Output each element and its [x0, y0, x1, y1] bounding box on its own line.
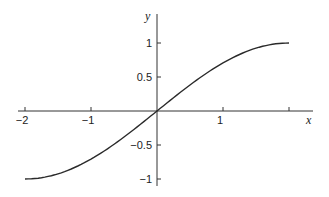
chart: −2−1110.5−0.5−1 x y — [0, 0, 329, 197]
y-tick-label: −1 — [139, 173, 152, 185]
x-tick-label: −2 — [16, 114, 29, 126]
y-tick-label: 1 — [146, 37, 152, 49]
y-axis-label: y — [144, 9, 151, 23]
x-tick-label: 1 — [217, 114, 223, 126]
y-tick-label: −0.5 — [130, 139, 152, 151]
axes — [18, 14, 313, 186]
x-axis-label: x — [305, 113, 312, 127]
y-tick-label: 0.5 — [137, 71, 152, 83]
x-tick-label: −1 — [82, 114, 95, 126]
